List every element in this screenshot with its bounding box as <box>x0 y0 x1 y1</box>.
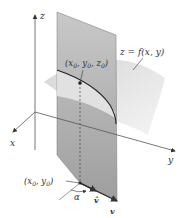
unit-vector-label: v̂ <box>94 195 99 205</box>
x-axis <box>13 112 35 132</box>
angle-label: α <box>74 192 80 202</box>
base-point-label: (x0, y0) <box>24 176 53 187</box>
y-axis-label: y <box>167 155 174 165</box>
surface-label: z = f(x, y) <box>119 47 165 57</box>
directional-derivative-diagram: z x y (x0, y0, z0) z = f(x, y) (x0, y0) … <box>0 0 186 218</box>
vector-label: v <box>110 206 115 216</box>
base-point-leader <box>66 181 80 183</box>
x-axis-label: x <box>10 138 15 148</box>
z-axis-label: z <box>39 11 45 21</box>
